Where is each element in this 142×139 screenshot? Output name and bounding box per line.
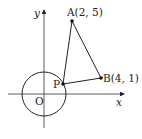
- point-a: [70, 19, 74, 23]
- label-y-axis: y: [33, 7, 41, 19]
- label-x-axis: x: [116, 96, 122, 108]
- point-p: [61, 82, 65, 86]
- label-origin: O: [35, 95, 44, 107]
- label-p: P: [53, 78, 60, 90]
- label-b: B(4, 1): [103, 72, 139, 84]
- coordinate-diagram: A(2, 5) B(4, 1) P O x y: [0, 0, 142, 139]
- label-a: A(2, 5): [66, 6, 103, 18]
- triangle-pab: [63, 21, 101, 84]
